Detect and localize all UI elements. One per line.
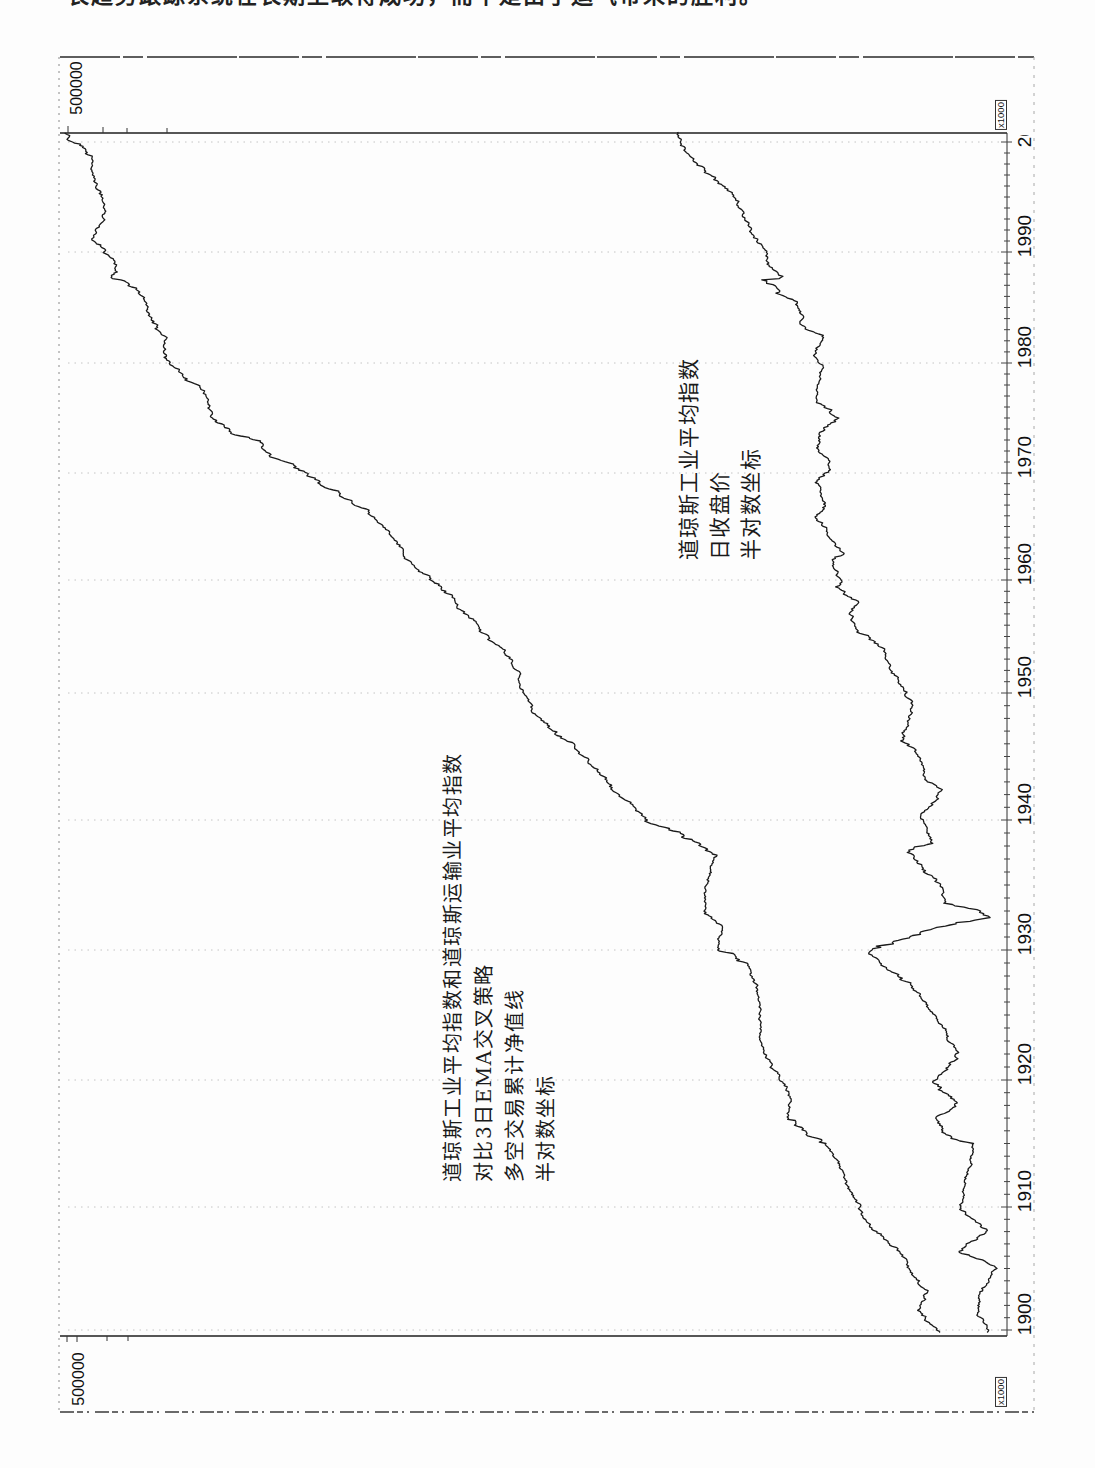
x-tick-label: 1950 [1014,656,1036,698]
djia-curve [677,132,997,1332]
value-axis-ticks-top [68,126,167,133]
value-axis-ticks-bottom [67,1336,128,1342]
multiplier-label-bottom: x1000 [995,1377,1007,1407]
x-tick-label: 1990 [1014,215,1036,257]
annotation-line: 多空交易累计净值线 [500,752,531,1182]
scanned-book-page: 长趋势跟踪系统在长期上取得成功，而不是由于运气带来的胜利。 [0,0,1095,1468]
x-tick-label: 1900 [1014,1293,1036,1335]
annotation-line: 半对数坐标 [531,752,562,1182]
multiplier-label-top: x1000 [995,100,1007,130]
x-tick-label: 1920 [1014,1043,1036,1085]
annotation-line: 对比3日EMA交叉策略 [469,752,500,1182]
time-axis-labels: 1900 1910 1920 1930 1940 1950 1960 1970 … [1008,135,1048,1345]
x-tick-label: 2000 [1014,135,1036,147]
chart-figure [0,0,1095,1468]
annotation-line: 道琼斯工业平均指数和道琼斯运输业平均指数 [438,752,469,1182]
x-tick-label: 1940 [1014,783,1036,825]
annotation-line: 半对数坐标 [736,358,767,561]
x-tick-label: 1980 [1014,326,1036,368]
x-tick-label: 1930 [1014,913,1036,955]
chart-frame [59,57,1034,1412]
annotation-line: 日收盘价 [705,358,736,561]
x-tick-label: 1970 [1014,436,1036,478]
value-axis-label-bottom: 500000 [70,1352,88,1405]
x-tick-label: 1960 [1014,543,1036,585]
value-axis-label-top: 500000 [68,61,86,114]
annotation-strategy-equity: 道琼斯工业平均指数和道琼斯运输业平均指数 对比3日EMA交叉策略 多空交易累计净… [438,752,562,1182]
annotation-line: 道琼斯工业平均指数 [674,358,705,561]
x-tick-label: 1910 [1014,1170,1036,1212]
annotation-djia: 道琼斯工业平均指数 日收盘价 半对数坐标 [674,358,767,561]
